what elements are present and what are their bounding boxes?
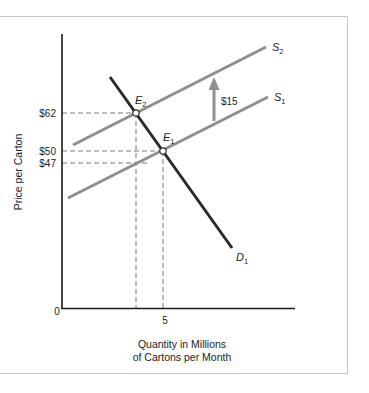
label-e2: E2: [135, 94, 147, 109]
equilibrium-point-e2: [133, 110, 139, 116]
y-tick-50: $50: [39, 146, 56, 157]
y-tick-62: $62: [39, 108, 56, 119]
equilibrium-point-e1: [160, 148, 166, 154]
supply-curve-s1: [68, 97, 268, 198]
origin-label: 0: [54, 306, 60, 317]
y-tick-47: $47: [39, 158, 56, 169]
supply-demand-diagram: $62 $50 $47 0 5 Price per Carton Quantit…: [0, 0, 369, 393]
label-s1: S1: [274, 91, 286, 106]
x-axis-title-line2: of Cartons per Month: [133, 351, 232, 363]
shift-amount-label: $15: [221, 96, 238, 107]
label-s2: S2: [272, 41, 284, 56]
x-axis-title-line1: Quantity in Millions: [138, 338, 226, 350]
y-axis-title: Price per Carton: [12, 134, 24, 211]
label-d1: D1: [236, 251, 248, 266]
shift-arrow-icon: [209, 77, 220, 121]
x-tick-5: 5: [162, 315, 168, 326]
label-e1: E1: [163, 131, 175, 146]
